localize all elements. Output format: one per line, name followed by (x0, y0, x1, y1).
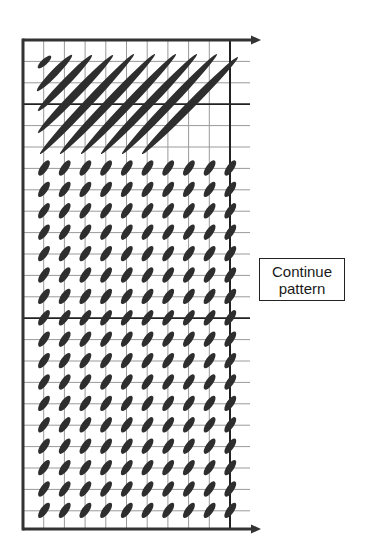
long-stitch-stroke (35, 52, 116, 136)
label-line-2: pattern (279, 280, 326, 297)
top-arrow-icon (251, 36, 261, 45)
long-stitch-stroke (36, 54, 53, 70)
continue-pattern-label: Continue pattern (259, 258, 345, 301)
label-line-1: Continue (272, 263, 332, 280)
long-stitch-stroke (139, 54, 241, 157)
long-stitch-stroke (34, 53, 74, 94)
bottom-arrow-icon (251, 525, 261, 534)
